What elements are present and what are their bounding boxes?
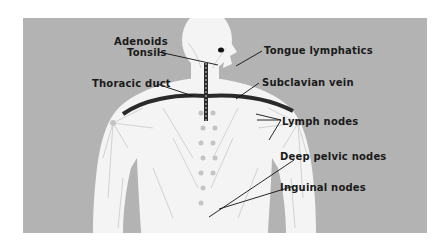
tonsil-marker (218, 48, 224, 53)
label-tonsils: Tonsils (127, 47, 167, 58)
diagram-panel: Adenoids Tonsils Thoracic duct Tongue ly… (23, 18, 427, 233)
label-lymph-nodes: Lymph nodes (282, 116, 358, 127)
label-adenoids: Adenoids (114, 36, 168, 47)
label-subclavian-vein: Subclavian vein (262, 77, 354, 88)
label-thoracic-duct: Thoracic duct (92, 78, 171, 89)
label-inguinal-nodes: Inguinal nodes (280, 182, 366, 193)
label-tongue-lymphatics: Tongue lymphatics (264, 45, 373, 56)
label-deep-pelvic-nodes: Deep pelvic nodes (280, 151, 387, 162)
